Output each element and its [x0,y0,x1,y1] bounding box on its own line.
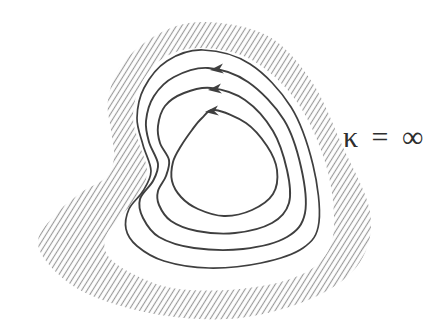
streamline-inner [171,110,277,216]
diagram-canvas: κ = ∞ [0,0,444,332]
kappa-infinity-label: κ = ∞ [343,120,426,153]
streamline-middle [157,88,290,234]
streamline-outer [139,68,306,250]
streamline-arrowhead-inner-icon [204,106,218,117]
diagram-figure: κ = ∞ [0,0,444,332]
hatched-wall-region [38,22,371,319]
